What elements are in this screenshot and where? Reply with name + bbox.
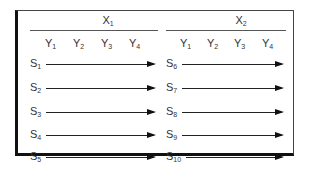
col-y4: Y4	[129, 37, 140, 50]
col-y2-b: Y2	[207, 37, 218, 50]
row-s6: S6	[166, 57, 177, 70]
col-y2: Y2	[73, 37, 84, 50]
row-s1: S1	[30, 57, 41, 70]
arrow-s2	[46, 88, 154, 89]
col-y3-b: Y3	[234, 37, 245, 50]
arrow-s7	[182, 88, 282, 89]
header-sub: 1	[110, 20, 114, 27]
row-s9: S9	[166, 128, 177, 141]
row-s10: S10	[166, 150, 181, 163]
row-s7: S7	[166, 81, 177, 94]
row-s4: S4	[30, 128, 41, 141]
arrow-s10	[186, 157, 282, 158]
col-y1: Y1	[45, 37, 56, 50]
arrow-s9	[182, 135, 282, 136]
row-s5: S5	[30, 150, 41, 163]
group-header-x1: X1	[88, 14, 128, 27]
col-y4-b: Y4	[262, 37, 273, 50]
row-s3: S3	[30, 105, 41, 118]
group-rule-x2	[166, 30, 286, 31]
arrow-s5	[46, 157, 154, 158]
col-y3: Y3	[101, 37, 112, 50]
header-letter: X	[102, 14, 109, 26]
arrow-s3	[46, 112, 154, 113]
row-s8: S8	[166, 105, 177, 118]
group-header-x2: X2	[221, 14, 261, 27]
arrow-s6	[182, 64, 282, 65]
col-y1-b: Y1	[180, 37, 191, 50]
arrow-s1	[46, 64, 154, 65]
row-s2: S2	[30, 81, 41, 94]
arrow-s4	[46, 135, 154, 136]
diagram-frame: X1 Y1 Y2 Y3 Y4 S1 S2 S3 S4 S5 X2 Y1 Y2 Y…	[15, 10, 294, 156]
group-rule-x1	[30, 30, 158, 31]
arrow-s8	[182, 112, 282, 113]
